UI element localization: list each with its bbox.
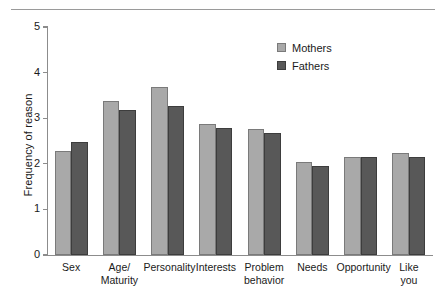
x-category-label-7-line-0: Like <box>385 261 433 274</box>
legend-swatch-fathers-icon <box>277 61 286 70</box>
legend-label-mothers: Mothers <box>292 42 332 54</box>
x-category-label-4-line-1: behavior <box>240 274 288 287</box>
bar-mothers-6 <box>344 157 361 255</box>
legend-item-mothers: Mothers <box>277 40 332 55</box>
y-tick-mark-1 <box>43 209 48 210</box>
x-category-label-0-line-0: Sex <box>47 261 95 274</box>
x-category-label-1-line-1: Maturity <box>95 274 143 287</box>
y-tick-mark-2 <box>43 163 48 164</box>
x-category-label-5: Needs <box>288 261 336 274</box>
bar-mothers-0 <box>55 151 72 255</box>
x-category-label-5-line-0: Needs <box>288 261 336 274</box>
legend-label-fathers: Fathers <box>292 60 329 72</box>
y-tick-mark-0 <box>43 254 48 255</box>
x-axis-line <box>47 255 433 256</box>
y-tick-label-4: 4 <box>16 67 40 78</box>
y-axis-title: Frequency of reason <box>22 70 34 220</box>
bar-mothers-3 <box>199 124 216 255</box>
bar-mothers-5 <box>296 162 313 255</box>
x-category-label-4-line-0: Problem <box>240 261 288 274</box>
chart-legend: Mothers Fathers <box>277 40 332 76</box>
x-category-label-6-line-0: Opportunity <box>337 261 385 274</box>
x-category-label-3: Interests <box>192 261 240 274</box>
top-divider-rule <box>11 9 435 10</box>
legend-item-fathers: Fathers <box>277 58 332 73</box>
bar-fathers-7 <box>409 157 426 255</box>
bar-fathers-4 <box>264 133 281 255</box>
y-tick-label-1: 1 <box>16 203 40 214</box>
bar-mothers-2 <box>151 87 168 255</box>
y-tick-label-3: 3 <box>16 112 40 123</box>
x-category-label-1: Age/Maturity <box>95 261 143 286</box>
x-category-label-7: Likeyou <box>385 261 433 286</box>
x-category-label-3-line-0: Interests <box>192 261 240 274</box>
legend-swatch-mothers-icon <box>277 43 286 52</box>
y-tick-label-2: 2 <box>16 158 40 169</box>
x-category-label-4: Problembehavior <box>240 261 288 286</box>
x-category-label-1-line-0: Age/ <box>95 261 143 274</box>
x-category-label-6: Opportunity <box>337 261 385 274</box>
bar-fathers-6 <box>361 157 378 255</box>
x-category-label-0: Sex <box>47 261 95 274</box>
x-category-label-2: Personality <box>144 261 192 274</box>
bar-fathers-2 <box>168 106 185 255</box>
bar-chart-figure: Frequency of reason 543210 SexAge/Maturi… <box>0 0 443 305</box>
bar-mothers-7 <box>392 153 409 255</box>
y-tick-label-5: 5 <box>16 21 40 32</box>
bar-fathers-5 <box>312 166 329 255</box>
bar-fathers-0 <box>71 142 88 255</box>
x-category-label-2-line-0: Personality <box>144 261 192 274</box>
bar-fathers-3 <box>216 128 233 255</box>
y-tick-mark-4 <box>43 72 48 73</box>
y-axis-line <box>47 26 48 256</box>
y-tick-mark-5 <box>43 26 48 27</box>
y-tick-label-0: 0 <box>16 249 40 260</box>
bar-fathers-1 <box>119 110 136 255</box>
bar-mothers-4 <box>248 129 265 255</box>
x-category-label-7-line-1: you <box>385 274 433 287</box>
y-tick-mark-3 <box>43 118 48 119</box>
bar-mothers-1 <box>103 101 120 255</box>
